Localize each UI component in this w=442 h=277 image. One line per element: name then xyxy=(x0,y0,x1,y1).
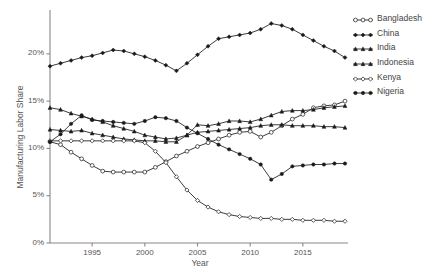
legend-label: Indonesia xyxy=(374,57,414,67)
legend-label: Bangladesh xyxy=(374,13,422,23)
legend-marker-filled-triangle-up-icon xyxy=(352,56,374,68)
legend-item-india[interactable]: India xyxy=(352,40,442,55)
legend-label: Nigeria xyxy=(374,86,404,96)
x-tick-label: 2000 xyxy=(125,248,165,257)
y-tick-label: 20% xyxy=(10,48,44,57)
legend-label: Kenya xyxy=(374,72,401,82)
y-tick-label: 5% xyxy=(10,190,44,199)
legend-marker-open-circle-icon xyxy=(352,12,374,24)
legend-label: China xyxy=(374,28,399,38)
chart-figure: Manufacturing Labor Share Year 0%5%10%15… xyxy=(0,0,442,277)
x-tick-label: 2010 xyxy=(230,248,270,257)
x-tick-label: 2015 xyxy=(283,248,323,257)
legend-item-bangladesh[interactable]: Bangladesh xyxy=(352,11,442,26)
legend-item-indonesia[interactable]: Indonesia xyxy=(352,55,442,70)
legend-item-nigeria[interactable]: Nigeria xyxy=(352,84,442,99)
legend-marker-filled-diamond-icon xyxy=(352,27,374,39)
x-axis-label: Year xyxy=(50,258,350,268)
data-series-group xyxy=(48,22,347,224)
series-indonesia xyxy=(48,104,347,144)
y-tick-label: 15% xyxy=(10,96,44,105)
y-tick-label: 10% xyxy=(10,143,44,152)
x-tick-label: 1995 xyxy=(72,248,112,257)
legend-marker-filled-triangle-icon xyxy=(352,41,374,53)
legend-marker-filled-circle-icon xyxy=(352,85,374,97)
legend-item-kenya[interactable]: Kenya xyxy=(352,69,442,84)
y-tick-label: 0% xyxy=(10,238,44,247)
x-tick-label: 2005 xyxy=(178,248,218,257)
legend-label: India xyxy=(374,42,395,52)
y-axis-label-wrapper: Manufacturing Labor Share xyxy=(9,72,27,202)
chart-legend: BangladeshChinaIndiaIndonesiaKenyaNigeri… xyxy=(352,11,442,99)
series-kenya xyxy=(48,139,347,224)
legend-marker-open-diamond-icon xyxy=(352,71,374,83)
legend-item-china[interactable]: China xyxy=(352,26,442,41)
axes xyxy=(47,10,349,247)
series-china xyxy=(48,22,347,73)
